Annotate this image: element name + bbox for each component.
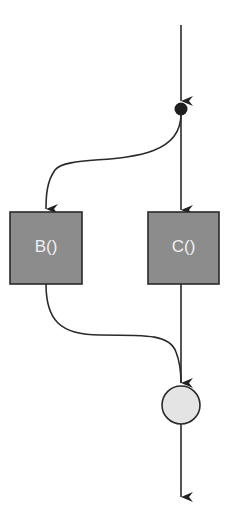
edge-fork-b — [46, 114, 181, 209]
node-b-label: B() — [10, 237, 82, 257]
node-c-label: C() — [148, 237, 219, 257]
edge-b-join — [46, 284, 181, 383]
fork-dot — [175, 103, 188, 116]
join-circle — [162, 386, 200, 424]
flow-diagram — [0, 0, 232, 520]
